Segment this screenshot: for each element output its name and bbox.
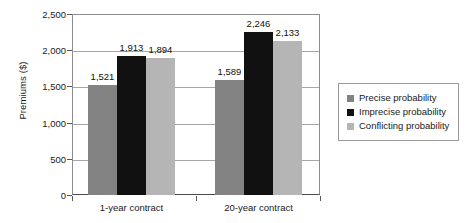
y-tick-label: 0: [8, 190, 66, 201]
legend-label: Precise probability: [359, 91, 437, 105]
bar: [273, 41, 302, 195]
legend-swatch-icon: [347, 95, 354, 102]
bar-value-label: 1,521: [91, 71, 115, 82]
y-tick-label: 1,500: [8, 81, 66, 92]
legend-swatch-icon: [347, 109, 354, 116]
bar-value-label: 1,589: [218, 66, 242, 77]
y-tick-label: 500: [8, 153, 66, 164]
x-category-label: 1-year contract: [100, 202, 163, 213]
y-tick-label: 2,500: [8, 9, 66, 20]
x-tick-mark: [196, 196, 197, 201]
legend-label: Imprecise probability: [359, 105, 446, 119]
legend-item: Imprecise probability: [347, 105, 449, 119]
bar-value-label: 2,133: [276, 27, 300, 38]
legend-item: Precise probability: [347, 91, 449, 105]
chart-legend: Precise probabilityImprecise probability…: [338, 83, 459, 141]
legend-label: Conflicting probability: [359, 119, 449, 133]
bar: [244, 32, 273, 195]
x-category-label: 20-year contract: [224, 202, 293, 213]
bar: [215, 80, 244, 195]
bar: [146, 58, 175, 195]
legend-swatch-icon: [347, 123, 354, 130]
bar-value-label: 1,894: [149, 44, 173, 55]
y-tick-label: 1,000: [8, 117, 66, 128]
y-tick-label: 2,000: [8, 45, 66, 56]
bar: [88, 85, 117, 195]
bar-value-label: 1,913: [120, 42, 144, 53]
bar-value-label: 2,246: [247, 18, 271, 29]
x-tick-mark: [72, 196, 73, 201]
legend-item: Conflicting probability: [347, 119, 449, 133]
bar-chart: Premiums ($) 05001,0001,5002,0002,500 1,…: [0, 0, 474, 223]
x-tick-mark: [320, 196, 321, 201]
bar: [117, 56, 146, 195]
